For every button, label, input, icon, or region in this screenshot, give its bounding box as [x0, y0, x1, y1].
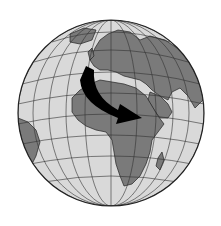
globe-map — [0, 0, 221, 226]
